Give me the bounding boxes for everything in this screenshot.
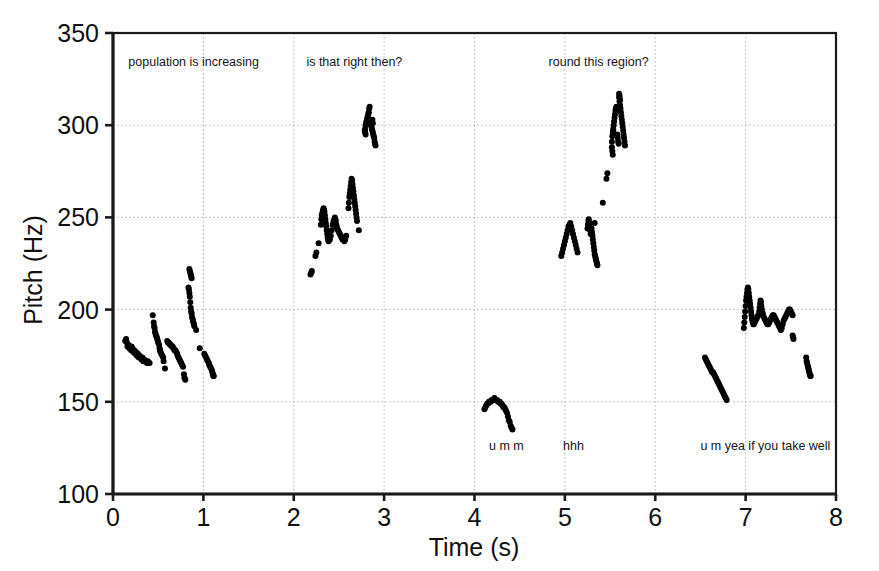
data-point bbox=[742, 308, 748, 314]
x-tick-label: 4 bbox=[468, 503, 482, 531]
x-tick-label: 0 bbox=[106, 503, 120, 531]
data-point bbox=[328, 233, 334, 239]
data-point bbox=[509, 426, 515, 432]
data-point bbox=[741, 320, 747, 326]
data-point bbox=[370, 120, 376, 126]
x-axis-tick-labels: 012345678 bbox=[106, 503, 843, 531]
data-point bbox=[161, 358, 167, 364]
figure-container: 012345678 100150200250300350 population … bbox=[0, 0, 879, 571]
data-point bbox=[367, 104, 373, 110]
x-tick-label: 3 bbox=[377, 503, 391, 531]
annotation-label: u m m bbox=[489, 439, 524, 453]
data-point bbox=[147, 360, 153, 366]
y-tick-label: 250 bbox=[57, 203, 99, 231]
data-point bbox=[617, 96, 623, 102]
x-tick-label: 6 bbox=[648, 503, 662, 531]
annotation-label: is that right then? bbox=[306, 55, 402, 69]
data-point bbox=[616, 141, 622, 147]
data-point bbox=[592, 220, 598, 226]
annotation-label: population is increasing bbox=[128, 55, 259, 69]
gridlines bbox=[113, 33, 836, 494]
data-series bbox=[558, 91, 628, 268]
data-point bbox=[180, 364, 186, 370]
data-series bbox=[307, 104, 378, 278]
annotation-label: hhh bbox=[563, 439, 584, 453]
data-point bbox=[316, 240, 322, 246]
annotation-label: round this region? bbox=[549, 55, 649, 69]
y-tick-label: 150 bbox=[57, 388, 99, 416]
data-point bbox=[189, 275, 195, 281]
pitch-time-scatter-chart: 012345678 100150200250300350 population … bbox=[0, 0, 879, 571]
data-point bbox=[600, 200, 606, 206]
data-point bbox=[187, 299, 193, 305]
data-series bbox=[481, 395, 515, 432]
x-tick-label: 8 bbox=[829, 503, 843, 531]
y-tick-label: 350 bbox=[57, 19, 99, 47]
data-point bbox=[354, 218, 360, 224]
x-tick-label: 5 bbox=[558, 503, 572, 531]
data-series bbox=[122, 266, 217, 383]
data-point bbox=[193, 327, 199, 333]
data-point bbox=[356, 227, 362, 233]
data-point bbox=[742, 314, 748, 320]
data-point bbox=[211, 373, 217, 379]
data-point bbox=[622, 142, 628, 148]
data-point bbox=[808, 373, 814, 379]
data-point bbox=[309, 268, 315, 274]
annotation-label: u m yea if you take well bbox=[700, 439, 830, 453]
data-point bbox=[150, 312, 156, 318]
data-point bbox=[313, 249, 319, 255]
data-point bbox=[187, 268, 193, 274]
data-point bbox=[373, 142, 379, 148]
y-axis-title: Pitch (Hz) bbox=[19, 215, 47, 325]
y-axis-tick-labels: 100150200250300350 bbox=[57, 19, 99, 508]
data-point bbox=[609, 139, 615, 145]
data-point bbox=[741, 325, 747, 331]
x-tick-label: 1 bbox=[196, 503, 210, 531]
data-point bbox=[345, 205, 351, 211]
data-point bbox=[363, 131, 369, 137]
data-point bbox=[791, 336, 797, 342]
data-point bbox=[575, 249, 581, 255]
data-series bbox=[702, 284, 814, 402]
x-tick-label: 7 bbox=[739, 503, 753, 531]
data-points bbox=[122, 91, 813, 433]
y-tick-label: 300 bbox=[57, 111, 99, 139]
data-point bbox=[187, 294, 193, 300]
y-tick-label: 100 bbox=[57, 480, 99, 508]
y-tick-label: 200 bbox=[57, 296, 99, 324]
data-point bbox=[790, 312, 796, 318]
x-tick-label: 2 bbox=[287, 503, 301, 531]
axis-tickmarks bbox=[105, 33, 836, 501]
data-point bbox=[604, 170, 610, 176]
data-point bbox=[197, 345, 203, 351]
data-point bbox=[346, 200, 352, 206]
data-point bbox=[329, 227, 335, 233]
data-point bbox=[162, 366, 168, 372]
data-point bbox=[724, 397, 730, 403]
x-axis-title: Time (s) bbox=[429, 533, 520, 561]
data-point bbox=[603, 176, 609, 182]
data-point bbox=[343, 233, 349, 239]
data-point bbox=[610, 152, 616, 158]
data-point bbox=[182, 377, 188, 383]
data-point bbox=[594, 262, 600, 268]
